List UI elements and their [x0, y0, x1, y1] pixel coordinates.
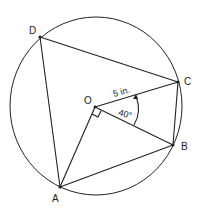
circle [10, 17, 182, 195]
segment-da [40, 37, 60, 187]
geometry-diagram: D C B A O 5 in. 40° [0, 0, 198, 215]
segment-oa [60, 107, 95, 187]
label-d: D [29, 25, 36, 36]
segment-oc [95, 82, 178, 107]
segment-ob [95, 107, 173, 145]
label-b: B [181, 141, 188, 152]
segment-ba [60, 145, 173, 187]
label-c: C [184, 76, 191, 87]
angle-arc [134, 96, 139, 125]
label-a: A [52, 193, 59, 204]
label-o: O [84, 95, 92, 106]
